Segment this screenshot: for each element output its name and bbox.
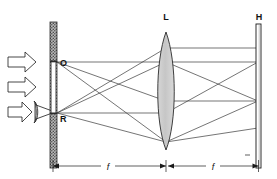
label-screen: H (256, 12, 263, 22)
diagram-canvas: f f O R L H (0, 0, 277, 179)
object-slide (51, 62, 56, 114)
label-lens: L (163, 12, 169, 22)
projection-screen (256, 24, 261, 168)
label-object-top: O (60, 58, 67, 68)
dimension-object-to-lens: f (53, 160, 166, 172)
illumination-arrow-3 (8, 102, 32, 122)
converging-lens (158, 32, 175, 150)
illumination-arrow-1 (8, 52, 36, 72)
slide-mount (50, 22, 57, 168)
label-object-bottom: R (60, 114, 67, 124)
illumination-arrow-2 (8, 77, 36, 97)
illumination-arrows (8, 52, 36, 122)
dimension-lens-to-screen: f (168, 155, 259, 172)
